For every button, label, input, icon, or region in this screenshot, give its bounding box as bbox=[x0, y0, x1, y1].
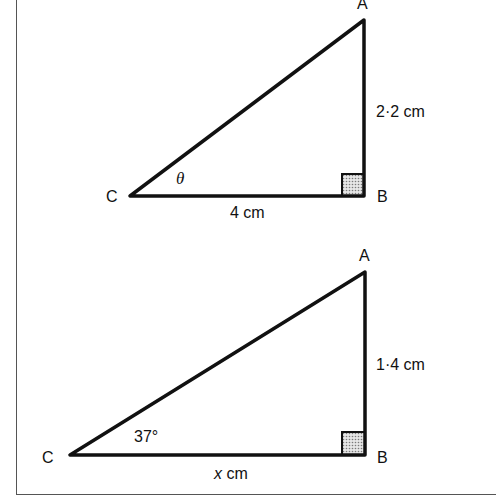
t1-vertex-a-label: A bbox=[357, 0, 368, 12]
triangle-2 bbox=[70, 272, 365, 455]
right-angle-marker-1 bbox=[342, 174, 364, 196]
right-angle-marker-2 bbox=[342, 432, 365, 455]
t2-vertex-a-label: A bbox=[359, 248, 370, 264]
t1-side-ab-label: 2·2 cm bbox=[376, 104, 425, 120]
t2-vertex-b-label: B bbox=[377, 450, 388, 466]
t2-vertex-c-label: C bbox=[42, 450, 54, 466]
triangle-1 bbox=[130, 20, 364, 196]
t1-vertex-b-label: B bbox=[377, 189, 388, 205]
t2-side-variable: x bbox=[214, 465, 222, 482]
t1-angle-theta-label: θ bbox=[176, 171, 184, 187]
t2-side-cb-label: x cm bbox=[214, 466, 248, 482]
triangle-1-outline bbox=[130, 20, 364, 196]
triangle-2-outline bbox=[70, 272, 365, 455]
t2-angle-37-label: 37° bbox=[134, 429, 158, 445]
t1-vertex-c-label: C bbox=[106, 189, 118, 205]
t2-side-unit: cm bbox=[222, 465, 248, 482]
t2-side-ab-label: 1·4 cm bbox=[376, 357, 425, 373]
t1-side-cb-label: 4 cm bbox=[230, 205, 265, 221]
